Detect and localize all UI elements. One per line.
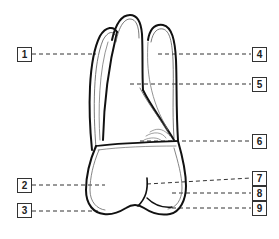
label-8: 8: [252, 186, 267, 201]
crown: [86, 141, 186, 215]
cusp-groove: [138, 178, 147, 206]
cemento-enamel-junction: [96, 141, 178, 146]
label-7: 7: [252, 171, 267, 186]
label-3: 3: [17, 203, 32, 218]
tooth-outline: [86, 15, 186, 215]
leader-lines: [32, 54, 251, 211]
label-1: 1: [17, 47, 32, 62]
tooth-diagram: [0, 0, 279, 239]
label-6: 6: [252, 134, 267, 149]
label-5: 5: [252, 77, 267, 92]
leader-7: [147, 178, 251, 184]
label-9: 9: [252, 201, 267, 216]
root-middle: [112, 15, 143, 90]
label-2: 2: [17, 178, 32, 193]
label-4: 4: [252, 47, 267, 62]
